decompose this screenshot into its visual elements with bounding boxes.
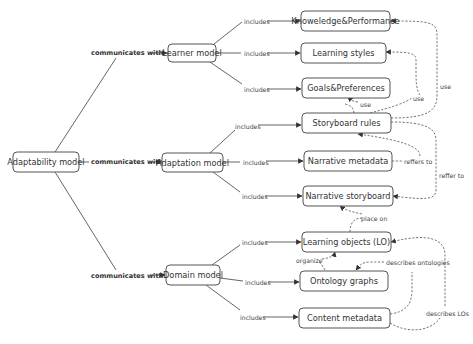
edge-adaptability-learner: communicates with — [55, 49, 167, 152]
edge-label-use: use — [440, 83, 451, 90]
edge-domain-learning-objects: includes — [212, 239, 301, 266]
node-learning-objects[interactable]: Learning objects (LO) — [302, 232, 391, 252]
edge-lo-place-on-narrative-storyboard: place on — [340, 206, 387, 232]
edge-domain-ontology-graphs: includes — [220, 278, 299, 286]
edge-adaptation-narrative-metadata: includes — [223, 159, 303, 166]
edge-label-includes: includes — [240, 314, 266, 321]
edge-label-includes: includes — [242, 239, 268, 246]
node-knowledge-performance[interactable]: Knoweledge&Performance — [291, 11, 399, 31]
svg-text:Learner model: Learner model — [162, 48, 221, 58]
node-adaptability-model[interactable]: Adaptability model — [7, 152, 84, 172]
edge-label-use: use — [360, 101, 371, 108]
node-learner-model[interactable]: Learner model — [162, 44, 221, 62]
edge-label-communicates-with: communicates with — [91, 158, 164, 166]
node-ontology-graphs[interactable]: Ontology graphs — [300, 271, 388, 291]
svg-text:Learning objects (LO): Learning objects (LO) — [303, 237, 390, 247]
edge-adaptability-adaptation: communicates with — [79, 158, 164, 166]
node-narrative-metadata[interactable]: Narrative metadata — [304, 151, 392, 171]
edge-label-place-on: place on — [361, 215, 387, 223]
node-adaptation-model[interactable]: Adaptation model — [156, 153, 229, 172]
node-narrative-storyboard[interactable]: Narrative storyboard — [303, 186, 393, 206]
svg-text:Adaptation model: Adaptation model — [156, 158, 229, 168]
node-domain-model[interactable]: Domain model — [163, 265, 223, 285]
edge-learner-goals: includes — [210, 62, 301, 93]
edge-storyboard-use-knowledge: use — [391, 21, 451, 118]
node-learning-styles[interactable]: Learning styles — [301, 43, 386, 63]
svg-text:Narrative metadata: Narrative metadata — [308, 156, 388, 166]
edge-adaptation-narrative-storyboard: includes — [213, 172, 302, 200]
svg-text:Ontology graphs: Ontology graphs — [310, 276, 378, 286]
edge-label-reffer-to: reffer to — [439, 172, 464, 179]
edge-label-includes: includes — [243, 159, 269, 166]
edge-label-includes: includes — [244, 86, 270, 93]
edge-label-communicates-with: communicates with — [91, 272, 164, 280]
svg-text:Domain model: Domain model — [163, 270, 223, 280]
edge-label-reffers-to: reffers to — [404, 158, 432, 165]
svg-text:Content metadata: Content metadata — [307, 313, 382, 323]
edge-label-organize: organize — [296, 257, 323, 265]
node-content-metadata[interactable]: Content metadata — [299, 308, 390, 328]
edge-label-includes: includes — [242, 193, 268, 200]
edge-ontology-organize-lo: organize — [296, 252, 335, 270]
edge-label-includes: includes — [244, 18, 270, 25]
node-storyboard-rules[interactable]: Storyboard rules — [302, 113, 391, 133]
svg-text:Goals&Preferences: Goals&Preferences — [307, 83, 384, 93]
svg-text:Storyboard rules: Storyboard rules — [312, 118, 380, 128]
edge-label-communicates-with: communicates with — [91, 49, 164, 57]
edge-label-describes-los: describes LOs — [426, 310, 469, 317]
edge-label-includes: includes — [235, 123, 261, 130]
edge-label-includes: includes — [244, 50, 270, 57]
svg-text:Knoweledge&Performance: Knoweledge&Performance — [291, 16, 399, 26]
edge-adaptation-storyboard-rules: includes — [210, 123, 301, 154]
edge-content-metadata-describes-los: describes LOs — [390, 238, 469, 330]
concept-map: communicates with communicates with comm… — [0, 0, 473, 344]
svg-text:Learning styles: Learning styles — [312, 48, 374, 58]
edge-learner-learning-styles: includes — [216, 50, 300, 57]
edge-storyboard-use-goals: use — [345, 98, 371, 113]
svg-text:Narrative storyboard: Narrative storyboard — [305, 191, 390, 201]
edge-adaptability-domain: communicates with — [55, 172, 165, 280]
edge-domain-content-metadata: includes — [206, 285, 298, 321]
svg-text:Adaptability model: Adaptability model — [7, 157, 84, 167]
node-goals-preferences[interactable]: Goals&Preferences — [302, 78, 390, 98]
edge-label-includes: includes — [245, 279, 271, 286]
edge-label-use: use — [413, 95, 424, 102]
edge-learner-knowledge: includes — [214, 18, 300, 45]
edge-label-describes-ontologies: describes ontologies — [386, 259, 450, 267]
